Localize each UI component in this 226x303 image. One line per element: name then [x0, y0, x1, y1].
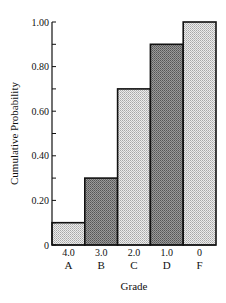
bar-c — [118, 89, 151, 245]
x-tick-points-label: 4.0 — [62, 247, 75, 258]
x-tick-points-label: 1.0 — [161, 247, 174, 258]
cumulative-probability-bar-chart: 4.0A3.0B2.0C1.0D0F00.200.400.600.801.00G… — [0, 0, 226, 303]
bar-f — [183, 22, 216, 245]
y-axis-title: Cumulative Probability — [8, 82, 20, 185]
x-tick-points-label: 3.0 — [95, 247, 108, 258]
x-tick-points-label: 0 — [197, 247, 202, 258]
y-tick-label: 0.80 — [32, 61, 50, 72]
bar-a — [52, 223, 85, 245]
x-tick-points-label: 2.0 — [128, 247, 141, 258]
y-tick-label: 1.00 — [32, 17, 50, 28]
y-tick-label: 0.40 — [32, 150, 50, 161]
y-tick-label: 0.60 — [32, 106, 50, 117]
x-tick-grade-label: C — [130, 259, 137, 271]
y-tick-label: 0 — [44, 240, 49, 251]
x-tick-grade-label: B — [98, 259, 105, 271]
x-tick-grade-label: F — [197, 259, 203, 271]
bar-d — [150, 44, 183, 245]
x-axis-title: Grade — [121, 280, 148, 292]
bars-group — [52, 22, 216, 245]
bar-b — [85, 178, 118, 245]
x-tick-grade-label: D — [163, 259, 171, 271]
y-tick-label: 0.20 — [32, 195, 50, 206]
x-tick-grade-label: A — [64, 259, 72, 271]
